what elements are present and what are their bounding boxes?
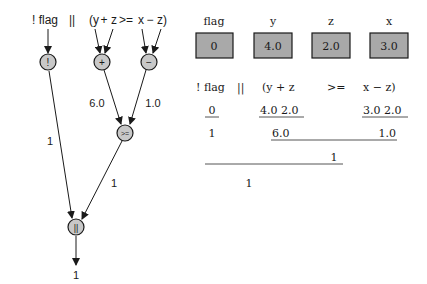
eval-header-gte: >= (327, 81, 345, 94)
edge-label-gte-result: 1 (111, 177, 117, 189)
expr-token-gte: >= (119, 13, 133, 27)
expr-token-or: || (69, 13, 75, 27)
node-or: || (68, 219, 84, 235)
node-minus-label: − (146, 57, 152, 68)
eval-final-result: 1 (246, 177, 253, 190)
expr-token-not-flag: ! flag (32, 13, 58, 27)
variable-flag: flag 0 (196, 15, 233, 58)
variable-x: x 3.0 (370, 15, 408, 58)
edge-label-final-result: 1 (73, 269, 79, 281)
eval-header-x-minus-z: x − z) (363, 81, 396, 94)
edge-label-not-result: 1 (47, 135, 53, 147)
edge-minus-to-gte (130, 70, 146, 124)
variable-boxes: flag 0 y 4.0 z 2.0 x 3.0 (196, 15, 408, 58)
edge-labels: 6.0 1.0 1 1 1 (47, 97, 161, 281)
edge-label-diff: 1.0 (145, 97, 160, 109)
variable-name: y (269, 15, 277, 28)
variable-y: y 4.0 (254, 15, 292, 58)
eval-y-z-values: 4.0 2.0 (260, 104, 298, 117)
expr-token-plus: + (100, 13, 107, 27)
edge-y-to-plus (95, 29, 100, 53)
eval-header-not-flag: ! flag (196, 81, 225, 94)
node-not-label: ! (47, 57, 50, 68)
expr-token-y: (y (89, 13, 99, 27)
node-not: ! (40, 54, 56, 70)
node-plus: + (94, 54, 110, 70)
eval-flag-value: 0 (209, 104, 216, 117)
variable-value: 4.0 (264, 40, 282, 53)
edge-plus-to-gte (104, 70, 121, 124)
expr-token-minus: − (146, 13, 153, 27)
expr-token-z: z (111, 13, 117, 27)
eval-sum: 6.0 (272, 127, 290, 140)
eval-x-z-values: 3.0 2.0 (363, 104, 401, 117)
eval-header-or: || (237, 81, 244, 95)
expression-tree-diagram: ! flag || (y + z >= x − z) ! + − >= (0, 0, 427, 284)
expr-token-z-close: z) (157, 13, 167, 27)
node-gte: >= (117, 125, 133, 141)
eval-header-y-plus-z: (y + z (262, 81, 295, 94)
variable-value: 0 (211, 40, 218, 53)
eval-gte-result: 1 (331, 151, 338, 164)
expr-token-x: x (138, 13, 144, 27)
eval-diff: 1.0 (379, 127, 397, 140)
eval-not-result: 1 (209, 127, 216, 140)
node-plus-label: + (99, 57, 105, 68)
variable-value: 2.0 (322, 40, 340, 53)
edge-x-to-minus (142, 29, 146, 53)
variable-name: x (386, 15, 393, 28)
edge-z-to-plus (105, 29, 113, 53)
variable-value: 3.0 (380, 40, 398, 53)
node-minus: − (141, 54, 157, 70)
edge-z-to-minus (153, 29, 161, 53)
variable-z: z 2.0 (312, 15, 350, 58)
edge-label-sum: 6.0 (89, 97, 104, 109)
tree-expression: ! flag || (y + z >= x − z) (32, 13, 167, 27)
variable-name: z (328, 15, 334, 28)
node-gte-label: >= (121, 130, 129, 137)
variable-name: flag (204, 15, 225, 28)
evaluation-steps: ! flag || (y + z >= x − z) 0 4.0 2.0 3.0… (196, 81, 408, 190)
node-or-label: || (74, 223, 79, 233)
